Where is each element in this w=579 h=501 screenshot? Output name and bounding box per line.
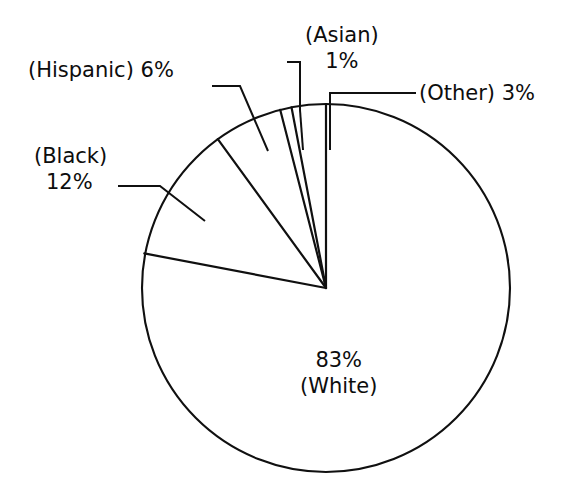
slice-label-black-name: (Black)	[34, 144, 107, 168]
slice-label-other: (Other) 3%	[419, 80, 535, 106]
slice-edge-other-asian	[292, 107, 327, 288]
leader-line-asian	[287, 62, 300, 110]
slice-label-white-value: 83%	[315, 348, 362, 372]
pie-chart-figure: (Hispanic) 6% (Black)12% (Asian)1% (Othe…	[0, 0, 579, 501]
slice-label-white-name: (White)	[300, 373, 377, 399]
slice-edge-black-white	[144, 253, 326, 288]
leader-line-asian-tick	[300, 110, 303, 150]
slice-label-black-value: 12%	[34, 169, 107, 195]
slice-label-white: 83%(White)	[300, 347, 377, 399]
slice-edge-hispanic-black	[218, 139, 326, 288]
slice-label-asian-name: (Asian)	[305, 23, 379, 47]
slice-edge-asian-hispanic	[280, 110, 326, 288]
leader-lines	[118, 62, 416, 221]
slice-label-hispanic: (Hispanic) 6%	[28, 57, 174, 83]
slice-label-black: (Black)12%	[34, 143, 107, 195]
slice-label-asian-value: 1%	[305, 48, 379, 74]
slice-label-asian: (Asian)1%	[305, 22, 379, 74]
